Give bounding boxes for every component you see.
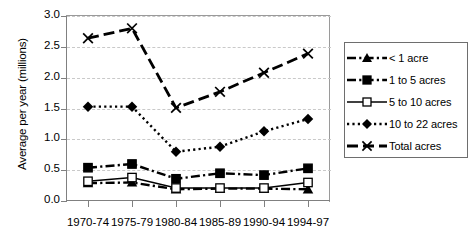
legend-key-filled-square-icon [345, 70, 389, 90]
y-tick-mark [61, 201, 67, 202]
y-tick-label: 0.0 [30, 193, 60, 205]
legend-label: 1 to 5 acres [389, 74, 445, 86]
x-tick-mark [308, 201, 309, 207]
y-tick-mark [61, 47, 67, 48]
y-tick-mark [61, 170, 67, 171]
y-tick-mark [61, 109, 67, 110]
legend-key-filled-diamond-icon [345, 114, 389, 134]
legend-label: Total acres [389, 140, 441, 152]
legend-item-total-acres[interactable]: Total acres [345, 135, 467, 157]
y-tick-mark [61, 16, 67, 17]
y-tick-label: 1.0 [30, 131, 60, 143]
legend-key-open-square-icon [345, 92, 389, 112]
y-tick-label: 2.5 [30, 39, 60, 51]
y-tick-label: 3.0 [30, 8, 60, 20]
x-tick-mark [220, 201, 221, 207]
x-tick-mark [88, 201, 89, 207]
legend-key-cross-x-icon [345, 136, 389, 156]
legend-label: < 1 acre [389, 52, 428, 64]
legend-key-filled-triangle-icon [345, 48, 389, 68]
chart-container: Average per year (millions) 0.00.51.01.5… [0, 0, 470, 250]
chart-legend: < 1 acre1 to 5 acres5 to 10 acres10 to 2… [344, 42, 468, 158]
legend-item-1-to-5-acres[interactable]: 1 to 5 acres [345, 69, 467, 91]
y-tick-label: 2.0 [30, 70, 60, 82]
legend-item-10-to-22-acres[interactable]: 10 to 22 acres [345, 113, 467, 135]
legend-item-5-to-10-acres[interactable]: 5 to 10 acres [345, 91, 467, 113]
x-tick-mark [264, 201, 265, 207]
y-tick-mark [61, 78, 67, 79]
y-tick-label: 0.5 [30, 162, 60, 174]
legend-label: 5 to 10 acres [389, 96, 451, 108]
legend-item--1-acre[interactable]: < 1 acre [345, 47, 467, 69]
x-tick-mark [132, 201, 133, 207]
x-tick-label: 1994-97 [273, 216, 343, 228]
y-tick-mark [61, 139, 67, 140]
legend-label: 10 to 22 acres [389, 118, 457, 130]
y-tick-label: 1.5 [30, 101, 60, 113]
x-tick-mark [176, 201, 177, 207]
